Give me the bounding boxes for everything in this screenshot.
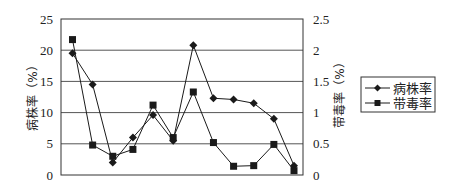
left-tick-label: 15 [40, 74, 53, 89]
series-line [73, 45, 295, 165]
left-tick-label: 5 [47, 136, 54, 151]
diamond-marker [189, 41, 197, 49]
square-marker [210, 139, 217, 146]
legend: 病株率 带毒率 [361, 77, 435, 112]
square-marker [291, 167, 298, 174]
square-marker [69, 36, 76, 43]
series-line [73, 40, 295, 171]
right-tick-label: 2.5 [313, 12, 329, 27]
square-marker [270, 141, 277, 148]
diamond-marker [209, 94, 217, 102]
square-marker [190, 89, 197, 96]
right-tick-label: 0.5 [313, 136, 329, 151]
left-tick-label: 0 [47, 168, 54, 183]
right-tick-label: 0 [313, 168, 320, 183]
left-axis-ticks: 0510152025 [40, 12, 53, 183]
right-axis-ticks: 00.511.522.5 [313, 12, 329, 183]
square-marker [150, 102, 157, 109]
square-marker [109, 153, 116, 160]
legend-label: 病株率 [393, 81, 432, 96]
square-marker [129, 146, 136, 153]
legend-label: 带毒率 [393, 96, 432, 111]
square-icon [375, 100, 381, 106]
left-axis-title: 病株率（%） [25, 59, 40, 130]
dual-axis-line-chart: 0510152025 00.511.522.5 病株率（%） 带毒率（%） 病株… [0, 0, 458, 188]
right-axis-title: 带毒率（%） [332, 56, 347, 127]
square-marker [170, 134, 177, 141]
series-layer [69, 36, 299, 174]
left-tick-label: 25 [40, 12, 53, 27]
right-tick-label: 1.5 [313, 74, 329, 89]
left-tick-label: 20 [40, 43, 53, 58]
square-marker [89, 142, 96, 149]
right-tick-label: 2 [313, 43, 320, 58]
right-tick-label: 1 [313, 105, 320, 120]
diamond-marker [230, 95, 238, 103]
square-marker [230, 163, 237, 170]
left-tick-label: 10 [40, 105, 53, 120]
square-marker [250, 162, 257, 169]
